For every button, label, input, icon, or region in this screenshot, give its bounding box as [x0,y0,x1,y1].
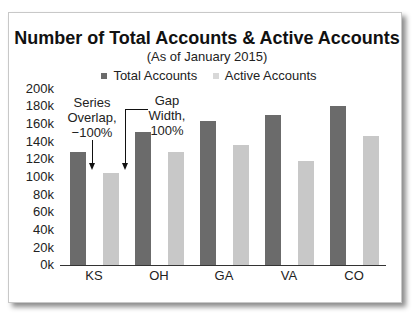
legend-item-active: Active Accounts [209,68,317,83]
y-tick: 160k [26,116,54,131]
y-tick: 40k [33,222,54,237]
x-tick: KS [69,268,119,283]
x-tick: CO [329,268,379,283]
x-tick: VA [264,268,314,283]
arrow-down-icon [122,163,128,170]
bar-active-accounts-va [298,161,314,265]
bar-total-accounts-va [265,115,281,265]
bar-active-accounts-ga [233,145,249,265]
arrow-line [125,109,126,164]
bar-total-accounts-ga [200,121,216,265]
bar-total-accounts-co [330,106,346,265]
chart-subtitle: (As of January 2015) [0,49,414,64]
y-tick: 120k [26,151,54,166]
chart-title: Number of Total Accounts & Active Accoun… [0,28,414,49]
bar-total-accounts-ks [70,152,86,265]
arrow-down-icon [89,163,95,170]
legend-item-total: Total Accounts [97,68,197,83]
bar-active-accounts-oh [168,152,184,265]
x-axis-line [60,265,386,266]
x-tick: OH [134,268,184,283]
y-tick: 60k [33,204,54,219]
annotation-gap-width: Gap Width, 100% [142,93,192,138]
arrow-line [125,109,148,110]
annotation-series-overlap: Series Overlap, −100% [62,95,122,140]
x-tick: GA [199,268,249,283]
y-tick: 200k [26,81,54,96]
y-tick: 180k [26,98,54,113]
y-tick: 0k [40,257,54,272]
legend-marker-icon [213,73,219,79]
y-tick: 140k [26,134,54,149]
legend-marker-icon [101,73,107,79]
legend: Total Accounts Active Accounts [0,68,414,83]
bar-active-accounts-co [363,136,379,265]
arrow-line [92,140,93,164]
y-tick: 20k [33,240,54,255]
bar-total-accounts-oh [135,132,151,265]
y-tick: 100k [26,169,54,184]
bar-active-accounts-ks [103,173,119,265]
y-tick: 80k [33,187,54,202]
